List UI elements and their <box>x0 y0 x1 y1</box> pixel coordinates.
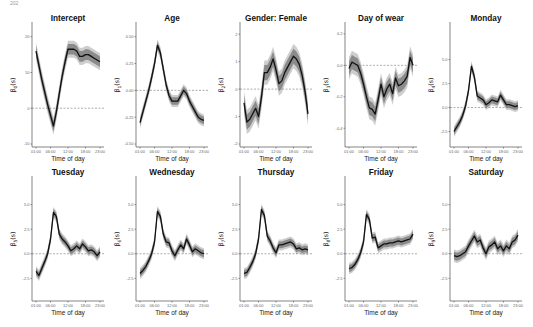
x-tick-label: 01:00 <box>135 303 146 308</box>
panel-title: Wednesday <box>149 168 195 177</box>
x-tick-label: 01:00 <box>239 303 250 308</box>
y-tick-label: 5.0 <box>128 202 134 207</box>
estimate-line <box>140 45 204 122</box>
y-tick-label: -2 <box>234 141 238 146</box>
y-tick-label: 0.00 <box>126 88 135 93</box>
panel-title: Gender: Female <box>245 14 307 23</box>
y-tick-label: -0.50 <box>124 141 134 146</box>
y-tick-label: -1 <box>234 114 238 119</box>
x-axis-label: Time of day <box>469 309 503 317</box>
panel-title: Intercept <box>51 14 86 23</box>
x-tick-label: 01:00 <box>135 149 146 154</box>
x-tick-label: 06:00 <box>359 149 370 154</box>
panel-day-of-wear: Day of wear-0.4-0.20.00.201:0006:0012:00… <box>315 12 421 172</box>
x-tick-label: 06:00 <box>464 149 475 154</box>
estimate-line <box>454 66 518 131</box>
y-axis-label: β8(s) <box>322 231 331 246</box>
panel-thursday: Thursday-2.50.02.55.001:0006:0012:0018:0… <box>210 166 316 326</box>
x-tick-label: 18:00 <box>184 149 195 154</box>
y-tick-label: 0.50 <box>126 34 135 39</box>
x-tick-label: 01:00 <box>31 303 42 308</box>
y-tick-label: 5.0 <box>442 202 448 207</box>
x-tick-label: 06:00 <box>46 303 57 308</box>
panel-gender-female: Gender: Female-2-101201:0006:0012:0018:0… <box>210 12 316 172</box>
y-tick-label: 5.0 <box>337 202 343 207</box>
x-tick-label: 12:00 <box>63 303 74 308</box>
y-tick-label: -0.2 <box>336 94 344 99</box>
x-tick-label: 01:00 <box>449 303 460 308</box>
x-tick-label: 12:00 <box>63 149 74 154</box>
x-tick-label: 23:00 <box>199 149 210 154</box>
x-tick-label: 18:00 <box>393 303 404 308</box>
x-tick-label: 23:00 <box>95 303 106 308</box>
x-tick-label: 23:00 <box>513 303 524 308</box>
y-axis-label: β3(s) <box>322 77 331 92</box>
confidence-band <box>454 63 518 135</box>
x-tick-label: 23:00 <box>408 149 419 154</box>
estimate-line <box>140 211 204 273</box>
x-axis-label: Time of day <box>155 309 189 317</box>
y-tick-label: -2.5 <box>336 276 344 281</box>
x-tick-label: 06:00 <box>254 303 265 308</box>
x-tick-label: 12:00 <box>271 303 282 308</box>
page-number: 202 <box>10 0 18 6</box>
confidence-band <box>454 61 518 137</box>
panel-title: Tuesday <box>52 168 85 177</box>
panel-saturday: Saturday-2.50.02.55.001:0006:0012:0018:0… <box>420 166 526 326</box>
y-axis-label: β1(s) <box>113 77 122 92</box>
x-tick-label: 18:00 <box>184 303 195 308</box>
confidence-band <box>140 208 204 277</box>
y-tick-label: -0.4 <box>336 126 344 131</box>
y-tick-label: 5.0 <box>442 57 448 62</box>
x-axis-label: Time of day <box>155 155 189 163</box>
x-tick-label: 12:00 <box>271 149 282 154</box>
y-tick-label: -2.5 <box>441 129 449 134</box>
y-tick-label: 5.0 <box>232 202 238 207</box>
y-tick-label: -2.5 <box>23 276 31 281</box>
x-axis-label: Time of day <box>259 309 293 317</box>
confidence-band <box>36 209 100 279</box>
x-tick-label: 06:00 <box>254 149 265 154</box>
y-axis-label: β9(s) <box>427 231 436 246</box>
x-tick-label: 01:00 <box>344 149 355 154</box>
panel-age: Age-0.50-0.250.000.250.5001:0006:0012:00… <box>106 12 212 172</box>
y-axis-label: β5(s) <box>9 231 18 246</box>
y-tick-label: 2.5 <box>442 81 448 86</box>
x-tick-label: 12:00 <box>167 303 178 308</box>
y-tick-label: 2.5 <box>337 227 343 232</box>
x-axis-label: Time of day <box>51 309 85 317</box>
y-axis-label: β7(s) <box>217 231 226 246</box>
x-tick-label: 23:00 <box>199 303 210 308</box>
y-tick-label: 0.0 <box>337 251 343 256</box>
x-tick-label: 01:00 <box>31 149 42 154</box>
panel-title: Age <box>164 14 180 23</box>
confidence-band <box>244 204 308 279</box>
y-tick-label: 20 <box>25 34 30 39</box>
x-tick-label: 01:00 <box>344 303 355 308</box>
y-tick-label: -2.5 <box>441 276 449 281</box>
x-axis-label: Time of day <box>469 155 503 163</box>
panel-intercept: Intercept-100102001:0006:0012:0018:0023:… <box>2 12 108 172</box>
y-tick-label: 0.2 <box>337 31 343 36</box>
x-tick-label: 18:00 <box>498 149 509 154</box>
panel-tuesday: Tuesday-2.50.02.55.001:0006:0012:0018:00… <box>2 166 108 326</box>
confidence-band <box>454 231 518 261</box>
x-tick-label: 06:00 <box>359 303 370 308</box>
y-tick-label: 0.0 <box>442 251 448 256</box>
y-tick-label: 2.5 <box>128 227 134 232</box>
x-tick-label: 18:00 <box>498 303 509 308</box>
y-tick-label: 0.0 <box>442 105 448 110</box>
y-tick-label: 0.0 <box>128 251 134 256</box>
x-tick-label: 12:00 <box>481 149 492 154</box>
x-tick-label: 06:00 <box>46 149 57 154</box>
y-tick-label: -0.25 <box>124 115 134 120</box>
x-tick-label: 23:00 <box>408 303 419 308</box>
y-tick-label: 2.5 <box>232 227 238 232</box>
x-tick-label: 01:00 <box>239 149 250 154</box>
x-tick-label: 18:00 <box>80 303 91 308</box>
y-tick-label: 0.0 <box>24 251 30 256</box>
x-tick-label: 06:00 <box>150 303 161 308</box>
x-tick-label: 12:00 <box>376 149 387 154</box>
page-header: 202 <box>0 0 533 10</box>
x-tick-label: 12:00 <box>481 303 492 308</box>
